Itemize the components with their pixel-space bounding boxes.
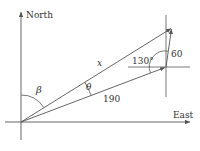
side-60-label: 60	[171, 49, 183, 59]
north-label: North	[26, 10, 53, 20]
side-190-label: 190	[103, 94, 120, 104]
vector-diagram: North East x 190 60 130° θ β	[0, 0, 200, 151]
beta-label: β	[35, 84, 42, 95]
angle-130-label: 130°	[132, 56, 154, 66]
theta-label: θ	[86, 82, 92, 92]
east-label: East	[173, 110, 194, 120]
angle-beta-arc	[21, 95, 44, 108]
resultant-x-vector	[21, 29, 171, 123]
x-label: x	[97, 58, 102, 68]
leg-190-vector	[21, 68, 165, 123]
leg-60-vector	[166, 29, 172, 67]
